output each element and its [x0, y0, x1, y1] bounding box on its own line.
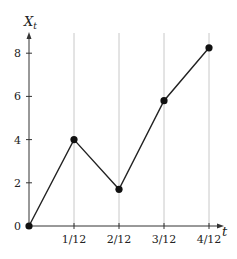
x-axis-title: t	[222, 224, 228, 239]
y-tick-label: 6	[14, 90, 21, 103]
line-chart: 02468 1/122/123/124/12 t Xt	[0, 0, 237, 259]
x-tick-label: 3/12	[152, 233, 177, 246]
data-point	[70, 136, 77, 143]
y-tick-label: 8	[14, 47, 21, 60]
x-tick-label: 1/12	[62, 233, 87, 246]
data-point	[115, 186, 122, 193]
y-tick-label: 2	[14, 177, 21, 190]
axes	[27, 32, 225, 229]
y-axis-title: Xt	[23, 14, 37, 31]
y-tick-label: 4	[14, 134, 21, 147]
data-point	[160, 97, 167, 104]
y-tick-label: 0	[14, 220, 21, 233]
data-point	[25, 222, 32, 229]
data-point	[205, 44, 212, 51]
x-tick-label: 2/12	[107, 233, 132, 246]
y-axis-arrow-icon	[27, 32, 32, 39]
x-tick-label: 4/12	[197, 233, 222, 246]
y-axis-title-sub: t	[33, 21, 37, 31]
vertical-gridlines	[74, 33, 209, 226]
